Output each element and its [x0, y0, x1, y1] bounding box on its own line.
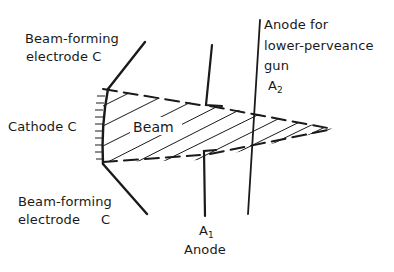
a2-subscript: 2	[277, 85, 283, 95]
label-beam-forming-top-2: electrode C	[26, 49, 101, 65]
label-anode-a2-1: Anode for	[264, 17, 328, 33]
anode-a1-lower	[204, 150, 216, 216]
a1-subscript: 1	[208, 230, 214, 240]
label-beam-forming-bottom-1: Beam-forming	[18, 194, 112, 210]
label-anode-a2-symbol: A2	[268, 78, 283, 98]
a2-symbol: A	[268, 78, 277, 93]
label-anode-a1-name: Anode	[184, 242, 226, 258]
a1-symbol: A	[199, 223, 208, 238]
label-anode-a1-symbol: A1	[199, 223, 214, 243]
label-beam-forming-bottom-c: C	[101, 212, 110, 228]
label-beam-forming-bottom-2: electrode	[18, 212, 80, 228]
anode-a1-upper	[206, 45, 222, 106]
cathode	[103, 89, 108, 164]
label-anode-a2-3: gun	[264, 58, 289, 74]
label-anode-a2-2: lower-perveance	[264, 38, 374, 54]
label-beam-forming-top-1: Beam-forming	[25, 31, 119, 47]
label-beam: Beam	[133, 119, 174, 135]
beam-forming-electrode-top	[108, 42, 145, 89]
label-cathode: Cathode C	[8, 119, 77, 135]
anode-a2	[248, 20, 260, 214]
